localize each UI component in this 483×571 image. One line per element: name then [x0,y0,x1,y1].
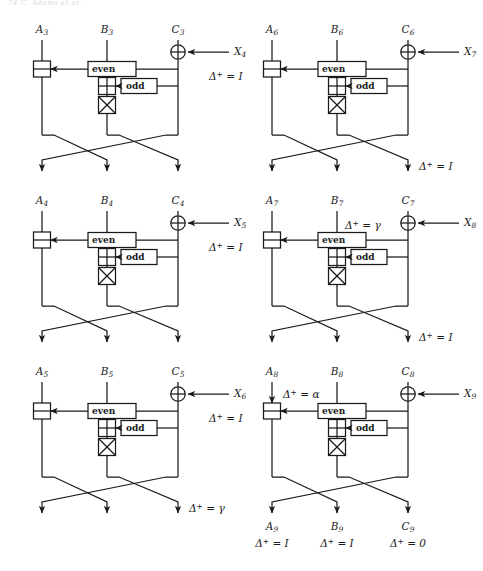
even-gate-label: even [92,236,115,245]
out-label-b: B9 [331,521,344,533]
wire-label-c: C6 [402,24,415,36]
out-label-a: A9 [266,521,278,533]
odd-gate-label: odd [126,424,145,433]
wire-label-b: B3 [101,24,114,36]
out-delta-label: Δ+ = I [320,538,354,549]
wire-label-b: B5 [101,366,114,378]
wire-label-a: A7 [266,195,278,207]
out-label-c: C9 [402,521,415,533]
wire-label-c: C3 [172,24,185,36]
circuit-diagram-svg [0,0,483,571]
even-gate-label: even [322,65,345,74]
out-delta-label: Δ+ = 0 [390,538,426,549]
wire-label-b: B8 [331,366,344,378]
odd-gate-label: odd [126,253,145,262]
wire-label-b: B4 [101,195,114,207]
wire-label-b: B7 [331,195,344,207]
delta-b-input-label: Δ+ = γ [345,220,381,231]
wire-label-a: A6 [266,24,278,36]
odd-gate-label: odd [356,253,375,262]
x-input-label: X8 [464,217,476,229]
wire-label-c: C5 [172,366,185,378]
wire-label-a: A3 [36,24,48,36]
wire-label-c: C8 [402,366,415,378]
odd-gate-label: odd [126,82,145,91]
x-input-label: X9 [464,388,476,400]
even-gate-label: even [322,407,345,416]
delta-mid-label: Δ+ = I [209,71,243,82]
delta-mid-label: Δ+ = I [209,413,243,424]
wire-label-b: B6 [331,24,344,36]
x-input-label: X4 [234,46,246,58]
odd-gate-label: odd [356,424,375,433]
wire-label-a: A5 [36,366,48,378]
x-input-label: X7 [464,46,476,58]
out-delta-label: Δ+ = I [255,538,289,549]
wire-label-c: C4 [172,195,185,207]
x-input-label: X5 [234,217,246,229]
even-gate-label: even [92,407,115,416]
delta-a-input-label: Δ+ = α [283,389,319,400]
delta-output-label: Δ+ = I [419,332,453,343]
odd-gate-label: odd [356,82,375,91]
wire-label-a: A4 [36,195,48,207]
delta-mid-label: Δ+ = I [209,242,243,253]
even-gate-label: even [92,65,115,74]
even-gate-label: even [322,236,345,245]
x-input-label: X6 [234,388,246,400]
delta-output-label: Δ+ = γ [189,503,225,514]
figure-canvas: 74 C. Adams et al. A3B3C3X4evenoddΔ+ = I… [0,0,483,571]
wire-label-c: C7 [402,195,415,207]
wire-label-a: A8 [266,366,278,378]
delta-output-label: Δ+ = I [419,161,453,172]
